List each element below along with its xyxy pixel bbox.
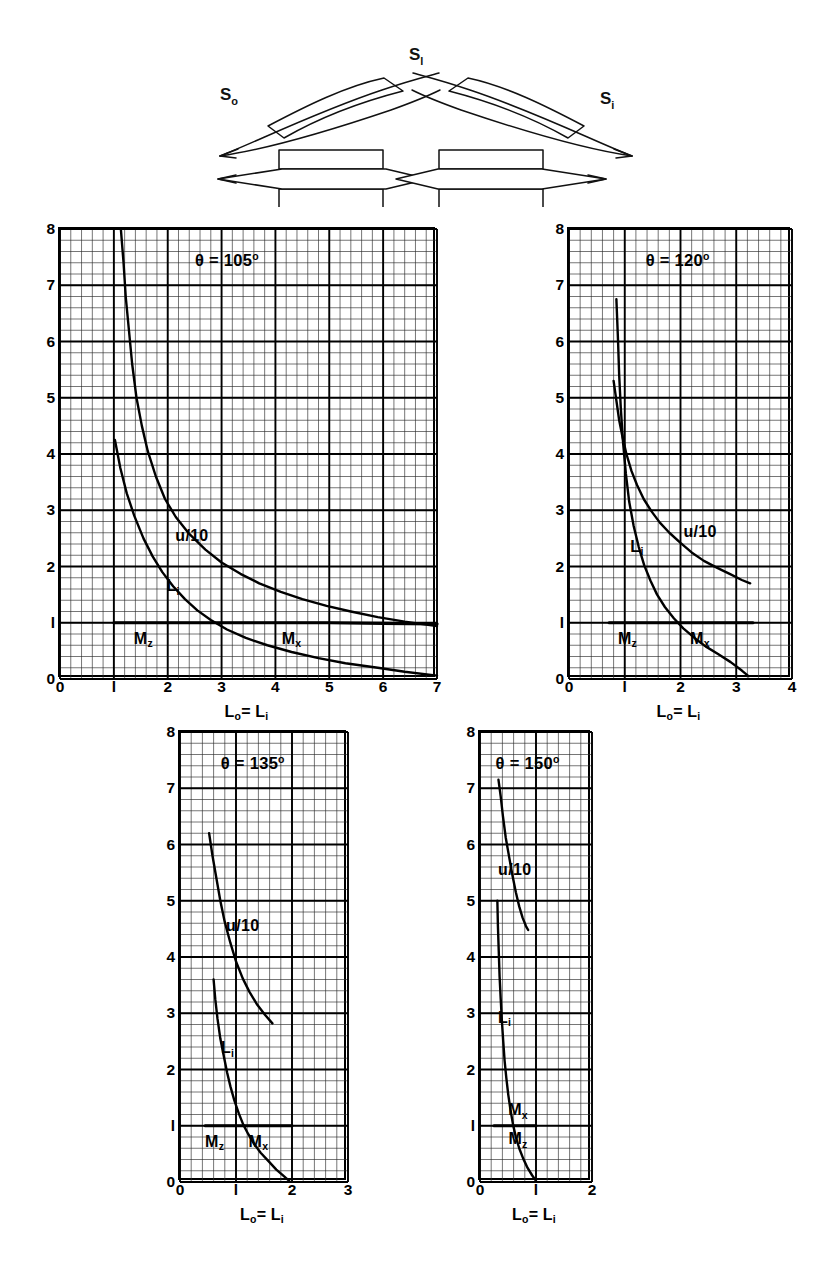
x-axis-label: Lo= Li xyxy=(240,1206,284,1224)
y-tick-label: 7 xyxy=(46,277,55,293)
grid-and-curves xyxy=(569,229,792,679)
curve-label-l-i: Li xyxy=(498,1009,511,1027)
y-tick-label: 6 xyxy=(466,836,475,852)
y-tick-label: 0 xyxy=(555,671,564,687)
blade-box-lower-right xyxy=(439,189,543,207)
plot-area-theta-120: 0l23456780l234θ = 120ou/10LiMzMx xyxy=(567,227,790,677)
y-tick-label: 0 xyxy=(166,1174,175,1190)
x-tick-label: 0 xyxy=(565,679,574,695)
x-tick-label: l xyxy=(112,679,116,695)
x-tick-label: 3 xyxy=(732,679,741,695)
x-tick-label: 0 xyxy=(176,1182,185,1198)
chart-theta-150: 0l23456780l2θ = 150ou/10LiMzMxLo= Li xyxy=(478,730,590,1180)
grid-and-curves xyxy=(480,732,592,1182)
curve-label-u-10: u/10 xyxy=(226,917,259,935)
y-tick-label: l xyxy=(471,1118,475,1134)
chart-theta-120: 0l23456780l234θ = 120ou/10LiMzMxLo= Li xyxy=(567,227,790,677)
curve-label-u-10: u/10 xyxy=(498,861,531,879)
plot-area-theta-135: 0l23456780l23θ = 135ou/10LiMzMx xyxy=(178,730,346,1180)
y-tick-label: 5 xyxy=(555,390,564,406)
curve-label-mx: Mx xyxy=(249,1133,269,1151)
y-tick-label: 8 xyxy=(46,221,55,237)
curve-m-z-m-x xyxy=(114,623,437,624)
blade-upper-left xyxy=(268,78,403,138)
theta-annotation: θ = 120o xyxy=(646,250,710,271)
y-tick-label: 2 xyxy=(46,558,55,574)
y-tick-label: 4 xyxy=(466,949,475,965)
curve-label-mz: Mz xyxy=(618,630,637,648)
label-s-mid: Sl xyxy=(409,45,423,67)
y-tick-label: 4 xyxy=(46,446,55,462)
x-tick-label: 0 xyxy=(56,679,65,695)
curve-label-mx: Mx xyxy=(282,630,302,648)
y-tick-label: 4 xyxy=(166,949,175,965)
curve-label-l-i: Li xyxy=(166,577,179,595)
x-tick-label: l xyxy=(623,679,627,695)
y-tick-label: 2 xyxy=(555,558,564,574)
theta-annotation: θ = 105o xyxy=(195,250,259,271)
x-tick-label: 2 xyxy=(588,1182,597,1198)
x-tick-label: 4 xyxy=(271,679,280,695)
y-tick-label: 7 xyxy=(555,277,564,293)
x-tick-label: 2 xyxy=(163,679,172,695)
x-tick-label: 3 xyxy=(344,1182,353,1198)
blade-cascade-diagram: So Sl Si xyxy=(196,42,656,207)
y-tick-label: 6 xyxy=(46,333,55,349)
x-tick-label: l xyxy=(534,1182,538,1198)
figure-page: So Sl Si 0l23456780l234567θ = 105ou/10Li… xyxy=(0,0,839,1274)
blade-box-upper-left xyxy=(279,150,383,169)
grid-and-curves xyxy=(60,229,437,679)
x-tick-label: 4 xyxy=(788,679,797,695)
blade-upper-right xyxy=(449,78,584,138)
theta-annotation: θ = 135o xyxy=(221,753,285,774)
label-s-out: So xyxy=(220,85,238,107)
flow-channel-right xyxy=(396,169,606,189)
y-tick-label: 3 xyxy=(166,1005,175,1021)
blade-box-lower-left xyxy=(279,189,383,207)
x-axis-label: Lo= Li xyxy=(657,703,701,721)
plot-area-theta-150: 0l23456780l2θ = 150ou/10LiMzMx xyxy=(478,730,590,1180)
y-tick-label: 7 xyxy=(166,780,175,796)
x-tick-label: l xyxy=(234,1182,238,1198)
y-tick-label: l xyxy=(51,615,55,631)
curve-label-mz: Mz xyxy=(134,630,153,648)
plot-area-theta-105: 0l23456780l234567θ = 105ou/10LiMzMx xyxy=(58,227,435,677)
x-tick-label: 7 xyxy=(433,679,442,695)
y-tick-label: 8 xyxy=(166,724,175,740)
y-tick-label: l xyxy=(171,1118,175,1134)
y-tick-label: 3 xyxy=(466,1005,475,1021)
y-tick-label: 3 xyxy=(46,502,55,518)
x-tick-label: 2 xyxy=(288,1182,297,1198)
curve-label-l-i: Li xyxy=(221,1039,234,1057)
y-tick-label: 0 xyxy=(466,1174,475,1190)
blade-box-upper-right xyxy=(439,150,543,169)
chart-theta-135: 0l23456780l23θ = 135ou/10LiMzMxLo= Li xyxy=(178,730,346,1180)
x-axis-label: Lo= Li xyxy=(225,703,269,721)
curve-label-u-10: u/10 xyxy=(683,523,716,541)
curve-label-mx: Mx xyxy=(508,1101,528,1119)
curve-label-u-10: u/10 xyxy=(175,527,208,545)
theta-annotation: θ = 150o xyxy=(496,753,560,774)
grid-and-curves xyxy=(180,732,348,1182)
y-tick-label: l xyxy=(560,615,564,631)
y-tick-label: 6 xyxy=(166,836,175,852)
x-axis-label: Lo= Li xyxy=(512,1206,556,1224)
x-tick-label: 6 xyxy=(379,679,388,695)
y-tick-label: 6 xyxy=(555,333,564,349)
curve-label-mz: Mz xyxy=(205,1133,224,1151)
curve-label-mx: Mx xyxy=(690,630,710,648)
y-tick-label: 8 xyxy=(555,221,564,237)
y-tick-label: 5 xyxy=(166,893,175,909)
x-tick-label: 0 xyxy=(476,1182,485,1198)
cascade-svg: So Sl Si xyxy=(196,42,656,207)
y-tick-label: 5 xyxy=(466,893,475,909)
x-tick-label: 2 xyxy=(676,679,685,695)
y-tick-label: 0 xyxy=(46,671,55,687)
x-tick-label: 3 xyxy=(217,679,226,695)
y-tick-label: 2 xyxy=(166,1061,175,1077)
y-tick-label: 8 xyxy=(466,724,475,740)
y-tick-label: 4 xyxy=(555,446,564,462)
curve-label-l-i: Li xyxy=(630,538,643,556)
y-tick-label: 2 xyxy=(466,1061,475,1077)
y-tick-label: 5 xyxy=(46,390,55,406)
